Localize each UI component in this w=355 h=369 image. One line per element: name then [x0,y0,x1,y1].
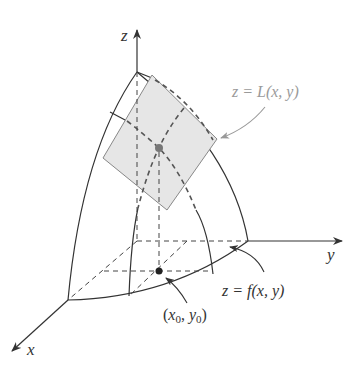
x-axis-label: x [27,340,35,360]
x-axis [12,300,68,351]
base-point-label: (x0, y0) [163,306,207,325]
tangent-point [155,144,163,152]
y0-var: y [189,306,196,323]
tangent-plane [103,75,217,210]
separator: , [181,306,189,323]
base-point-arrow [166,278,187,303]
paren-close: ) [202,306,207,323]
surface-label: z = f(x, y) [222,282,284,300]
plane-label-arrow [221,107,265,138]
base-point [156,268,163,275]
z-axis-label: z [121,26,128,46]
tangent-plane-label: z = L(x, y) [232,83,299,101]
y-axis-label: y [327,245,335,265]
surface-label-arrow [230,247,264,272]
